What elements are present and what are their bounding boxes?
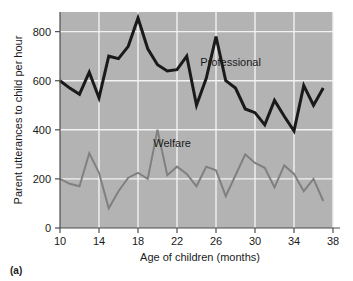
x-axis-tick-label: 18 — [132, 235, 144, 247]
figure-panel: 0200400600800 1014182226303438 Parent ut… — [0, 0, 353, 281]
x-axis-tick-label: 38 — [327, 235, 339, 247]
line-chart: 0200400600800 1014182226303438 Parent ut… — [0, 0, 353, 281]
y-axis-tick-label: 400 — [33, 124, 51, 136]
y-axis-ticks — [55, 32, 60, 228]
x-axis-tick-labels: 1014182226303438 — [54, 235, 339, 247]
y-axis-tick-labels: 0200400600800 — [33, 26, 51, 234]
series-label-welfare: Welfare — [153, 137, 191, 149]
y-axis-title: Parent utterances to child per hour — [12, 35, 24, 204]
y-axis-tick-label: 200 — [33, 173, 51, 185]
x-axis-tick-label: 34 — [288, 235, 300, 247]
x-axis-tick-label: 30 — [249, 235, 261, 247]
y-axis-tick-label: 600 — [33, 75, 51, 87]
x-axis-tick-label: 10 — [54, 235, 66, 247]
x-axis-tick-label: 26 — [210, 235, 222, 247]
y-axis-tick-label: 0 — [45, 222, 51, 234]
x-axis-title: Age of children (months) — [140, 251, 260, 263]
y-axis-tick-label: 800 — [33, 26, 51, 38]
series-label-professional: Professional — [200, 56, 261, 68]
x-axis-ticks — [60, 228, 333, 233]
x-axis-tick-label: 22 — [171, 235, 183, 247]
panel-caption: (a) — [10, 265, 22, 276]
plot-background — [60, 12, 333, 228]
x-axis-tick-label: 14 — [93, 235, 105, 247]
